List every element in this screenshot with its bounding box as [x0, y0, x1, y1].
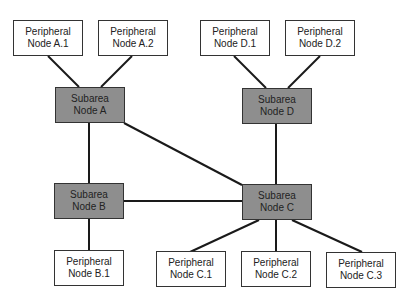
peripheral-node-c3: Peripheral Node C.3 [326, 252, 396, 288]
node-label: Node A.1 [27, 38, 68, 50]
subarea-node-a: Subarea Node A [55, 87, 125, 123]
network-diagram: Peripheral Node A.1 Peripheral Node A.2 … [0, 0, 404, 301]
node-label: Peripheral [338, 258, 384, 270]
node-label: Node A.2 [112, 38, 153, 50]
node-label: Node D.1 [214, 38, 256, 50]
node-label: Node C.2 [255, 269, 297, 281]
peripheral-node-a1: Peripheral Node A.1 [13, 20, 83, 56]
peripheral-node-c2: Peripheral Node C.2 [241, 251, 311, 287]
peripheral-node-d2: Peripheral Node D.2 [285, 20, 355, 56]
edge-c-c3 [292, 220, 362, 252]
node-label: Peripheral [25, 26, 71, 38]
node-label: Node B.1 [68, 268, 110, 280]
edge-d2-d [288, 56, 320, 88]
node-label: Node C.1 [170, 269, 212, 281]
node-label: Node C [260, 202, 294, 214]
subarea-node-d: Subarea Node D [242, 88, 312, 124]
node-label: Subarea [71, 93, 109, 105]
subarea-node-b: Subarea Node B [54, 183, 124, 219]
edge-a2-a [101, 56, 132, 87]
node-label: Peripheral [110, 26, 156, 38]
node-label: Subarea [258, 190, 296, 202]
node-label: Subarea [70, 189, 108, 201]
edge-c-c1 [190, 220, 259, 252]
node-label: Peripheral [297, 26, 343, 38]
peripheral-node-b1: Peripheral Node B.1 [54, 250, 124, 286]
peripheral-node-a2: Peripheral Node A.2 [98, 20, 168, 56]
node-label: Node B [72, 201, 105, 213]
node-label: Peripheral [168, 257, 214, 269]
edge-a1-a [48, 56, 79, 87]
peripheral-node-d1: Peripheral Node D.1 [200, 20, 270, 56]
node-label: Subarea [258, 94, 296, 106]
node-label: Node D [260, 106, 294, 118]
node-label: Node C.3 [340, 270, 382, 282]
node-label: Peripheral [253, 257, 299, 269]
node-label: Peripheral [66, 256, 112, 268]
subarea-node-c: Subarea Node C [242, 184, 312, 220]
node-label: Node D.2 [299, 38, 341, 50]
node-label: Node A [74, 105, 107, 117]
peripheral-node-c1: Peripheral Node C.1 [156, 251, 226, 287]
edge-a-c [124, 123, 242, 185]
node-label: Peripheral [212, 26, 258, 38]
edge-d1-d [234, 56, 266, 88]
